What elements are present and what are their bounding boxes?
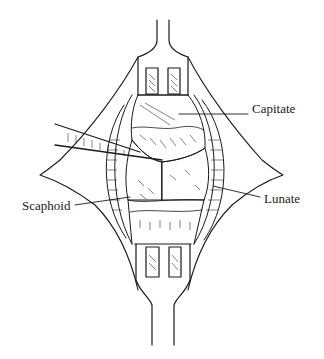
surgical-illustration: Capitate Lunate Scaphoid bbox=[0, 0, 324, 359]
lunate-bone bbox=[162, 148, 209, 200]
top-retractor bbox=[138, 20, 188, 95]
label-capitate: Capitate bbox=[252, 102, 295, 115]
wrist-drawing bbox=[0, 0, 324, 359]
capitate-bone bbox=[131, 95, 205, 162]
bottom-retractor bbox=[135, 244, 191, 345]
label-lunate: Lunate bbox=[264, 192, 300, 205]
scaphoid-leader-line bbox=[75, 197, 130, 205]
label-scaphoid: Scaphoid bbox=[22, 199, 70, 212]
leader-lines bbox=[75, 114, 260, 205]
retracted-tissue bbox=[106, 95, 224, 244]
lunate-leader-line bbox=[213, 186, 260, 197]
radius-articular-surface bbox=[128, 200, 204, 244]
